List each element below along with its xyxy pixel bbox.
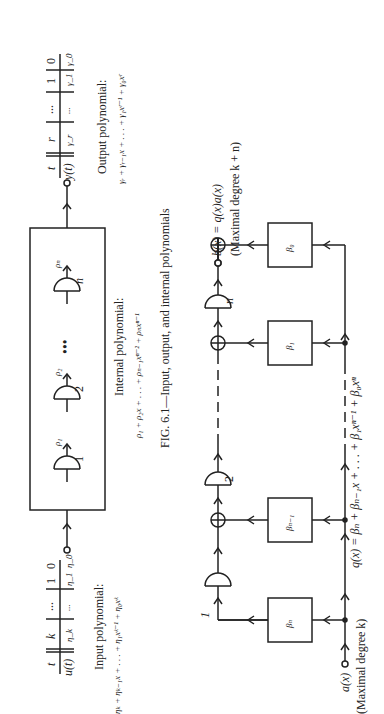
ellipsis: ••• [58,339,74,354]
input-poly-formula: ηₖ + ηₖ₋₁x + . . . + η₁xᵏ⁻¹ + η₀xᵏ [112,597,122,714]
delay-label-1: 1 [72,456,87,462]
output-table-gamma-0: γ_0 [64,53,74,66]
rotated-page: t k ... 1 0 u(t) η_k ... η_1 η_0 t r ...… [0,0,384,714]
delay-unit-2 [54,374,80,412]
output-table-dots: ... [42,105,57,114]
input-table-t: t [44,663,59,666]
output-b-label: b(x) = q(x)a(x) [210,184,225,256]
input-a-note: (Maximal degree k) [354,619,369,714]
input-terminal-a [342,661,348,667]
output-table-t: t [44,167,59,170]
delay-label-n: n [72,278,87,284]
rho-n: ρₙ [52,260,62,268]
beta-1-label: β₁ [284,342,294,350]
output-terminal [64,180,70,186]
output-table-1: 1 [44,78,59,84]
internal-poly-label: Internal polynomial: [112,298,127,396]
output-poly-formula: γᵣ + γᵣ₋₁x + . . . + γ₁xʳ⁻¹ + γ₀xʳ [116,74,126,184]
input-terminal [64,547,70,553]
beta-0-label: β₀ [284,244,294,252]
delay2-label-n: n [222,298,237,304]
input-a-label: a(x) [338,673,353,692]
input-table-eta-1: η_1 [64,573,74,586]
output-table-r: r [44,137,59,142]
input-table-0: 0 [44,563,59,569]
input-table-1: 1 [44,578,59,584]
input-table-eta-k: η_k [64,629,74,642]
output-poly-label: Output polynomial: [95,80,110,174]
output-table-gamma-r: γ_r [64,134,74,146]
input-table-k: k [44,634,59,639]
input-table-u: u(t) [61,659,76,676]
beta-n-1-label: βₙ₋₁ [284,515,294,531]
q-formula: q(x) = βₙ + βₙ₋₁x + . . . + β₁xⁿ⁻¹ + β₀x… [348,377,363,568]
delay2-label-2: 2 [222,476,237,482]
output-table-0: 0 [44,58,59,64]
delay-unit-1 [54,444,80,482]
diagram-lines [0,0,384,714]
input-table-dots: ... [42,602,57,611]
input-table-dots2: ... [62,604,72,611]
input-table-eta-0: η_0 [64,555,74,568]
internal-poly-formula: ρ₁ + ρ₂x + . . . + ρₙ₋₁xⁿ⁻² + ρₙxⁿ⁻¹ [133,313,143,438]
output-table-dots2: ... [62,107,72,114]
input-poly-label: Input polynomial: [92,584,107,670]
beta-n-label: βₙ [284,620,294,628]
output-table-y: y(t) [61,163,76,180]
output-table-gamma-1: γ_1 [64,73,74,86]
rho-1: ρ₁ [52,439,62,446]
figure-caption: FIG. 6.1—Input, output, and internal pol… [158,208,173,448]
output-b-note: (Maximal degree k + n) [228,142,243,256]
delay2-label-1: 1 [198,612,213,618]
rho-2: ρ₂ [52,369,62,376]
delay-unit-n [54,266,80,304]
delay-label-2: 2 [72,386,87,392]
